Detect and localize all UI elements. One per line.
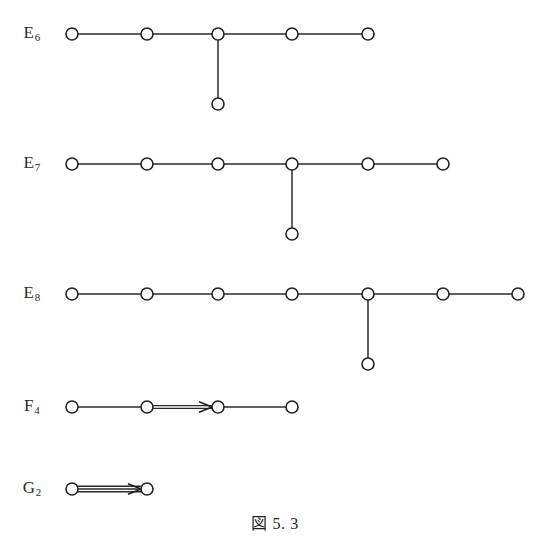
- row-label-letter: E: [24, 283, 35, 302]
- e7-node-branch: [286, 228, 298, 240]
- e8-node-4: [286, 288, 298, 300]
- diagram-e6: [66, 28, 374, 110]
- row-label-letter: E: [24, 153, 35, 172]
- row-label-letter: G: [23, 478, 35, 497]
- figure-caption: 図 5. 3: [251, 510, 299, 534]
- e8-node-6: [437, 288, 449, 300]
- row-label-subscript: 4: [34, 405, 40, 417]
- g2-edge-1-2-triple: [78, 484, 141, 494]
- e6-node-3: [212, 28, 224, 40]
- row-label-subscript: 8: [35, 292, 41, 304]
- row-label-letter: E: [24, 23, 35, 42]
- e7-node-5: [362, 158, 374, 170]
- diagram-e8: [66, 288, 524, 370]
- e7-node-6: [437, 158, 449, 170]
- row-label-g2: G2: [23, 479, 42, 498]
- diagram-canvas: [0, 0, 550, 542]
- e8-node-3: [212, 288, 224, 300]
- row-label-e6: E6: [24, 24, 41, 43]
- row-label-f4: F4: [24, 397, 40, 416]
- row-label-subscript: 6: [35, 32, 41, 44]
- row-label-subscript: 2: [36, 487, 42, 499]
- e7-node-4: [286, 158, 298, 170]
- g2-node-1: [66, 483, 78, 495]
- f4-node-3: [212, 401, 224, 413]
- row-label-letter: F: [24, 396, 34, 415]
- row-label-e7: E7: [24, 154, 41, 173]
- diagram-f4: [66, 401, 298, 413]
- e6-node-1: [66, 28, 78, 40]
- e8-node-5: [362, 288, 374, 300]
- e7-node-1: [66, 158, 78, 170]
- diagram-g2: [66, 483, 153, 495]
- f4-node-1: [66, 401, 78, 413]
- row-label-subscript: 7: [35, 162, 41, 174]
- g2-node-2: [141, 483, 153, 495]
- e8-node-branch: [362, 358, 374, 370]
- e8-node-7: [512, 288, 524, 300]
- e6-node-5: [362, 28, 374, 40]
- e7-node-2: [141, 158, 153, 170]
- f4-edge-2-3-double: [153, 402, 212, 412]
- dynkin-diagram-figure: E6E7E8F4G2 図 5. 3: [0, 0, 550, 542]
- row-label-e8: E8: [24, 284, 41, 303]
- f4-node-4: [286, 401, 298, 413]
- f4-node-2: [141, 401, 153, 413]
- diagram-e7: [66, 158, 449, 240]
- f4-edge-2-3-double-arrowhead-icon: [199, 402, 212, 412]
- e8-node-2: [141, 288, 153, 300]
- e6-node-4: [286, 28, 298, 40]
- e7-node-3: [212, 158, 224, 170]
- e6-node-branch: [212, 98, 224, 110]
- e6-node-2: [141, 28, 153, 40]
- e8-node-1: [66, 288, 78, 300]
